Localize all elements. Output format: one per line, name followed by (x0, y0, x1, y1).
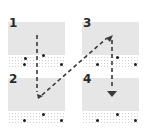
arrow-2-to-3 (42, 38, 107, 95)
arrowhead-4 (107, 91, 117, 97)
reading-flow-arrows (0, 0, 152, 133)
